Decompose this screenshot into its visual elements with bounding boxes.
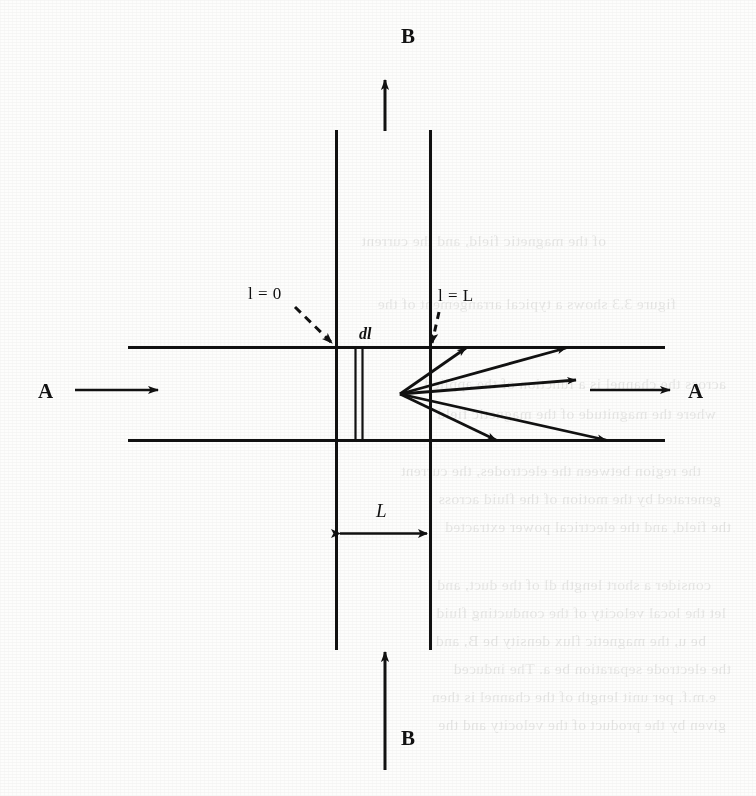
label-flow-left: A [38, 379, 53, 404]
diagram-linework [0, 0, 756, 796]
fan-ray-upper-near [400, 348, 466, 394]
leader-l-zero [295, 307, 332, 343]
label-element-dl: dl [359, 325, 371, 343]
label-l-zero: l = 0 [248, 284, 282, 304]
leader-l-length [432, 312, 439, 343]
fan-ray-lower-near [400, 394, 496, 440]
label-field-bottom: B [401, 726, 415, 751]
label-length-L: L [376, 500, 387, 522]
label-l-length: l = L [438, 286, 474, 306]
label-flow-right: A [688, 379, 703, 404]
label-field-top: B [401, 24, 415, 49]
figure-canvas: of the magnetic field, and the currentfi… [0, 0, 756, 796]
